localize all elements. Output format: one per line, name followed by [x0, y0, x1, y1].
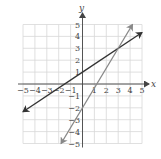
x-tick-label: 3: [116, 86, 121, 95]
y-tick-label: 2: [75, 56, 80, 65]
y-tick-label: −2: [68, 104, 80, 113]
y-tick-label: 4: [75, 32, 80, 41]
line-1-upper: [83, 32, 143, 72]
x-tick-label: 4: [128, 86, 133, 95]
tick-labels: −5−4−3−2−11234554321−1−2−3−4−5: [17, 21, 144, 149]
x-axis-label: x: [151, 79, 156, 89]
x-tick-label: 2: [104, 86, 109, 95]
y-tick-label: −5: [68, 140, 80, 149]
x-tick-label: −4: [29, 86, 41, 95]
y-tick-label: −1: [68, 92, 80, 101]
axes: [18, 13, 149, 148]
line-2-upper: [97, 25, 133, 85]
y-tick-label: 3: [75, 44, 80, 53]
coordinate-plane: −5−4−3−2−11234554321−1−2−3−4−5 x y: [0, 0, 161, 159]
y-tick-label: −3: [68, 116, 80, 125]
x-tick-label: 5: [139, 86, 144, 95]
y-axis-label: y: [78, 3, 85, 13]
x-tick-label: −5: [17, 86, 29, 95]
y-tick-label: 5: [75, 21, 80, 30]
